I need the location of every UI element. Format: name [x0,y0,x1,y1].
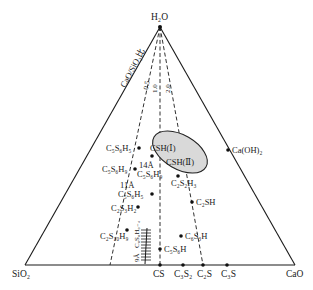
point-c5s6h5-11a [150,192,154,196]
ratio-tick-1-0: 1.0 [151,84,159,93]
point-c3s [225,263,229,267]
point-c2s [201,263,205,267]
vertex-h2o-label: H₂O [151,12,168,22]
point-c5s6h [158,247,162,251]
vertex-cao-label: CaO [286,269,304,279]
base-label-cs: CS [153,269,165,279]
label-c2s2h3: C₂S₂H₃ [171,178,196,188]
label-c5s6h: C₅S₆H [164,244,186,254]
ternary-diagram: H₂O SiO₂ CaO CaO/SiO₂比 0.5 1.0 2.0 CSH(Ⅰ… [0,0,313,290]
point-c5s6h5-top [137,146,141,150]
point-c2s3h2 [136,205,140,209]
point-c3s2 [181,263,185,267]
label-c5s6h5-top: C₅S₆H₅ [106,143,131,153]
csh-2-label: CSH(Ⅱ) [166,157,194,167]
label-hatched-formula: C₆S₆H₀₋₄ [133,220,141,248]
csh-1-label: CSH(Ⅰ) [150,143,176,153]
point-c6s3h [179,234,183,238]
label-9a: 9Å [133,253,141,262]
base-label-c2s: C₂S [197,269,212,279]
label-c6s3h: C₆S₃H [185,231,207,241]
vertex-sio2-label: SiO₂ [12,269,30,279]
label-c2s3h2: C₂S₃H₂ [111,203,136,213]
point-14a-c5s6h9 [150,154,154,158]
point-caoh2 [226,148,230,152]
vertex-h2o-dot [158,25,162,29]
point-c2sh [190,200,194,204]
label-c5s6h9-right: C₅S₆H₉ [137,169,162,179]
label-c5s6h5-11a: C₅S₆H₅ [118,189,143,199]
label-c5s6h9-left: C₅S₆H₉ [102,164,127,174]
hatched-region-9a [141,228,151,264]
base-label-c3s2: C₃S₂ [174,269,192,279]
point-cs [158,263,162,267]
label-c2s10h9: C₂S₁₀H₉ [100,231,128,241]
label-caoh2: Ca(OH)₂ [232,145,262,155]
ratio-tick-2-0: 2.0 [164,84,172,93]
label-c2sh: C₂SH [196,197,216,207]
base-label-c3s: C₃S [221,269,236,279]
